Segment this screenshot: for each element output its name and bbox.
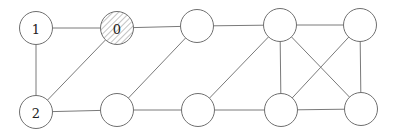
graph-node-n0: 0 [101,12,134,45]
node-layer: 102 [20,9,378,129]
graph-node-b4 [265,94,298,127]
node-label: 1 [32,22,40,37]
node-circle [344,9,377,42]
graph-node-t4 [264,9,297,42]
graph-node-t3 [181,10,214,43]
graph-node-b3 [182,94,215,127]
node-circle [345,93,378,126]
node-circle [182,94,215,127]
edge-b3-t4 [198,25,280,110]
graph-node-n2: 2 [20,96,53,129]
node-circle [264,9,297,42]
node-circle [181,10,214,43]
graph-node-n1: 1 [20,12,53,45]
graph-diagram: 102 [0,0,396,133]
node-label: 2 [32,106,40,121]
graph-node-b5 [345,93,378,126]
graph-node-b1 [101,94,134,127]
node-circle [101,94,134,127]
node-label: 0 [113,22,121,37]
node-circle [265,94,298,127]
graph-node-t5 [344,9,377,42]
